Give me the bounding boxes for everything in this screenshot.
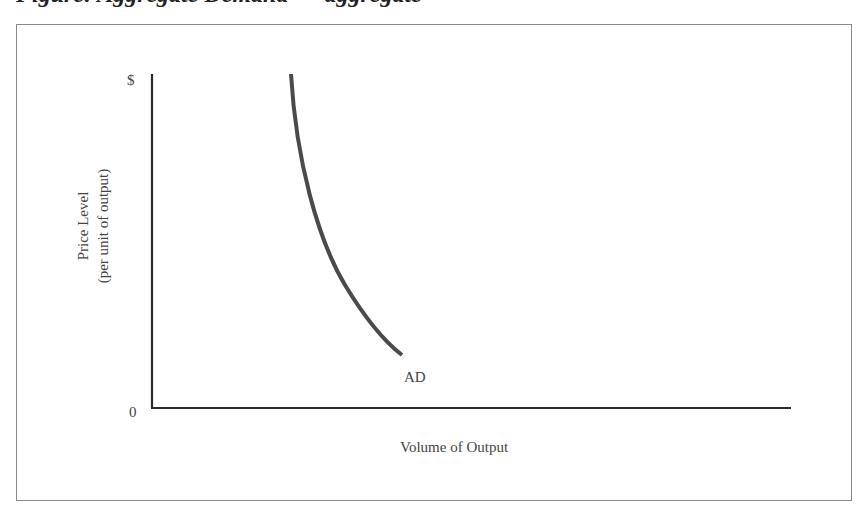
y-axis-label: Price Level (per unit of output) (73, 169, 113, 284)
y-top-tick: $ (127, 72, 135, 89)
y-axis-title: Price Level (73, 169, 93, 284)
x-axis-label: Volume of Output (400, 439, 508, 456)
ad-label: AD (404, 369, 426, 386)
ad-curve (291, 74, 402, 355)
y-axis-subtitle: (per unit of output) (93, 169, 113, 284)
origin-tick: 0 (129, 404, 137, 421)
